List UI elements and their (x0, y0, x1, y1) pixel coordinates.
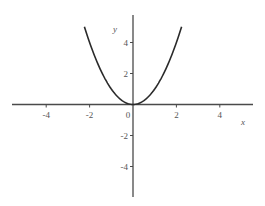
x-tick-label: 2 (174, 110, 179, 120)
y-tick-label: -4 (121, 162, 129, 172)
y-tick-label: 2 (124, 69, 129, 79)
x-tick-label: 0 (126, 110, 131, 120)
x-tick-label: 4 (218, 110, 223, 120)
x-tick-label: -4 (42, 110, 50, 120)
x-axis-label: x (240, 117, 245, 127)
y-axis-label: y (112, 24, 117, 34)
x-tick-label: -2 (86, 110, 94, 120)
y-tick-label: -2 (121, 131, 129, 141)
y-tick-label: 4 (124, 38, 129, 48)
function-plot: -4-2024 -4-224 x y (0, 0, 265, 206)
